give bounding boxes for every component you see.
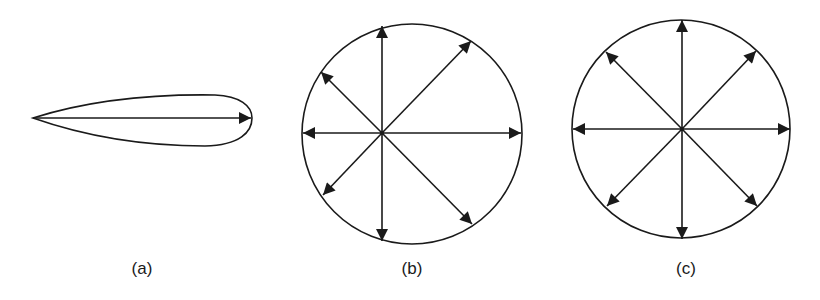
origin-point <box>680 127 684 131</box>
panel-label-a: (a) <box>132 259 153 279</box>
origin-point <box>380 131 384 135</box>
arrow-up-left-icon <box>321 72 382 133</box>
panel-b-radial-diagram <box>302 24 522 244</box>
arrow-down-right-icon <box>382 133 472 224</box>
arrow-up-left-icon <box>606 52 682 129</box>
figure-canvas <box>0 0 820 300</box>
panel-label-c: (c) <box>676 259 696 279</box>
arrow-down-right-icon <box>682 129 757 206</box>
arrow-down-left-icon <box>323 133 382 195</box>
arrow-up-right-icon <box>682 51 756 129</box>
arrow-up-right-icon <box>382 41 471 133</box>
panel-a-lobe-diagram <box>33 95 252 146</box>
boundary-circle <box>302 24 522 244</box>
panel-label-b: (b) <box>402 259 423 279</box>
arrow-down-left-icon <box>607 129 682 206</box>
lobe-outline <box>33 95 252 146</box>
